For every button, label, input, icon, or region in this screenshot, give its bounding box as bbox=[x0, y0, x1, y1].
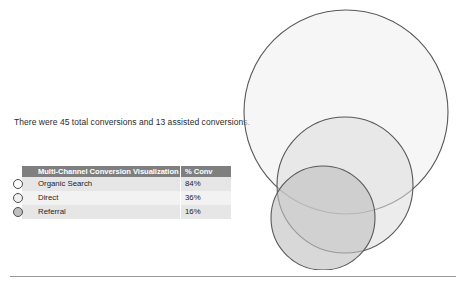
channel-label: Direct bbox=[38, 193, 58, 202]
table-header-conv: % Conv bbox=[181, 166, 232, 177]
table-cell-channel: Direct bbox=[22, 191, 181, 205]
channel-label: Organic Search bbox=[38, 179, 92, 188]
table-header-row: Multi-Channel Conversion Visualization %… bbox=[22, 166, 231, 177]
table-cell-channel: Referral bbox=[22, 205, 181, 219]
table-header-channel: Multi-Channel Conversion Visualization bbox=[22, 166, 181, 177]
venn-circle-referral[interactable] bbox=[271, 166, 375, 270]
multi-channel-conversion-table: Multi-Channel Conversion Visualization %… bbox=[22, 166, 231, 219]
table-cell-conv: 16% bbox=[181, 205, 232, 219]
table-cell-conv: 36% bbox=[181, 191, 232, 205]
table-cell-channel: Organic Search bbox=[22, 177, 181, 191]
report-canvas: There were 45 total conversions and 13 a… bbox=[0, 0, 466, 286]
footer-divider bbox=[10, 276, 456, 277]
table-row[interactable]: Referral 16% bbox=[22, 205, 231, 219]
conversion-summary-text: There were 45 total conversions and 13 a… bbox=[14, 117, 250, 128]
circle-outline-icon bbox=[13, 179, 23, 189]
channel-label: Referral bbox=[38, 207, 66, 216]
venn-diagram bbox=[236, 0, 466, 270]
table-row[interactable]: Organic Search 84% bbox=[22, 177, 231, 191]
circle-filled-icon bbox=[13, 207, 23, 217]
circle-outline-icon bbox=[13, 193, 23, 203]
table-cell-conv: 84% bbox=[181, 177, 232, 191]
table-row[interactable]: Direct 36% bbox=[22, 191, 231, 205]
